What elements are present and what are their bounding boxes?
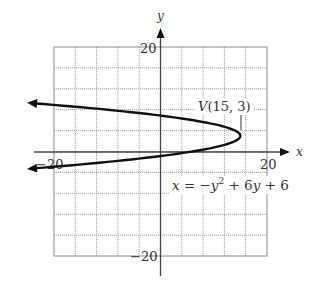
vertex-label: V(15, 3) bbox=[198, 99, 251, 114]
x-tick-20: 20 bbox=[260, 157, 277, 172]
y-axis-label: y bbox=[156, 9, 164, 23]
y-axis-arrow-icon bbox=[157, 28, 165, 38]
x-tick-neg20: −20 bbox=[36, 157, 63, 172]
y-tick-neg20: −20 bbox=[130, 249, 157, 264]
x-axis-label: x bbox=[296, 145, 303, 159]
y-tick-20: 20 bbox=[140, 41, 157, 56]
parabola-graph: x y 20 −20 20 −20 V(15, 3) x = −y2 + 6y … bbox=[0, 0, 318, 301]
curve-arrow-lower-icon bbox=[27, 164, 37, 173]
x-axis-arrow-icon bbox=[280, 148, 290, 156]
equation-label: x = −y2 + 6y + 6 bbox=[172, 176, 289, 193]
curve-arrow-upper-icon bbox=[27, 99, 37, 108]
